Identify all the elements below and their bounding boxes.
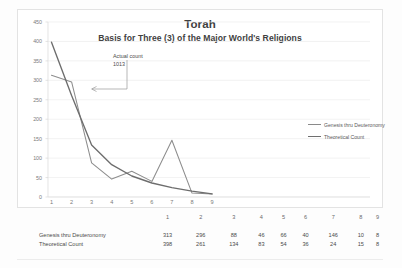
table-header-row: 1 2 3 4 5 6 7 8 9 <box>17 212 383 221</box>
table-cell: 40 <box>295 227 317 239</box>
table-cell: 134 <box>217 239 250 248</box>
table-cell: 8 <box>372 227 383 239</box>
annotation-line-1: Actual count <box>113 52 143 60</box>
column-header: 4 <box>250 212 272 221</box>
column-header: 8 <box>350 212 372 221</box>
table-cell: 313 <box>151 227 184 239</box>
x-tick-label: 9 <box>202 199 222 205</box>
plot-area: 450 400 350 300 250 200 150 100 50 0 1 2… <box>18 10 384 207</box>
annotation-line-2: 1013 <box>113 60 143 68</box>
table-cell: 15 <box>350 239 372 248</box>
row-label: Theoretical Count <box>17 239 151 248</box>
y-tick-label: 50 <box>20 175 42 181</box>
chart-legend[interactable]: Genesis thru Deuteronomy Theoretical Cou… <box>308 120 385 144</box>
legend-line-icon <box>308 124 321 125</box>
x-tick-label: 5 <box>122 199 142 205</box>
x-tick-label: 1 <box>42 199 62 205</box>
column-header: 2 <box>184 212 217 221</box>
y-axis-ticks <box>46 22 49 197</box>
column-header: 5 <box>272 212 294 221</box>
table-cell: 296 <box>184 227 217 239</box>
annotation-actual-count: Actual count 1013 <box>113 52 143 69</box>
y-tick-label: 450 <box>20 19 42 25</box>
legend-line-icon <box>308 136 321 137</box>
table-cell: 8 <box>372 239 383 248</box>
column-header: 3 <box>217 212 250 221</box>
data-table-container[interactable]: 1 2 3 4 5 6 7 8 9 Genesis thru Deuterono… <box>17 212 383 260</box>
x-tick-label: 4 <box>102 199 122 205</box>
table-cell: 398 <box>151 239 184 248</box>
x-tick-label: 7 <box>162 199 182 205</box>
row-label: Genesis thru Deuteronomy <box>17 227 151 239</box>
screenshot-root: Torah Basis for Three (3) of the Major W… <box>0 0 402 268</box>
y-tick-label: 250 <box>20 97 42 103</box>
x-tick-label: 2 <box>62 199 82 205</box>
legend-label: Genesis thru Deuteronomy <box>324 122 385 128</box>
y-tick-label: 0 <box>20 194 42 200</box>
table-cell: 146 <box>317 227 350 239</box>
table-body: Genesis thru Deuteronomy 313 296 88 46 6… <box>17 227 383 248</box>
table-cell: 66 <box>272 227 294 239</box>
table-cell: 83 <box>250 239 272 248</box>
column-header: 9 <box>372 212 383 221</box>
table-cell: 10 <box>350 227 372 239</box>
table-cell: 54 <box>272 239 294 248</box>
y-tick-label: 400 <box>20 38 42 44</box>
x-tick-label: 6 <box>142 199 162 205</box>
table-cell: 88 <box>217 227 250 239</box>
table-cell: 261 <box>184 239 217 248</box>
column-header: 1 <box>151 212 184 221</box>
table-corner-cell <box>17 212 151 221</box>
y-tick-label: 150 <box>20 136 42 142</box>
plot-svg <box>18 10 384 207</box>
table-cell: 24 <box>317 239 350 248</box>
x-tick-label: 3 <box>82 199 102 205</box>
table-row[interactable]: Genesis thru Deuteronomy 313 296 88 46 6… <box>17 227 383 239</box>
table-bottom-divider <box>17 259 383 260</box>
y-tick-label: 350 <box>20 58 42 64</box>
legend-item-genesis-thru-deuteronomy[interactable]: Genesis thru Deuteronomy <box>308 120 385 129</box>
table-cell: 36 <box>295 239 317 248</box>
table-head: 1 2 3 4 5 6 7 8 9 <box>17 212 383 227</box>
legend-item-theoretical-count[interactable]: Theoretical Count <box>308 132 385 141</box>
column-header: 6 <box>295 212 317 221</box>
gridlines <box>48 22 370 178</box>
data-table: 1 2 3 4 5 6 7 8 9 Genesis thru Deuterono… <box>17 212 383 248</box>
y-tick-label: 300 <box>20 77 42 83</box>
legend-label: Theoretical Count <box>324 134 364 140</box>
column-header: 7 <box>317 212 350 221</box>
x-tick-label: 8 <box>182 199 202 205</box>
table-row[interactable]: Theoretical Count 398 261 134 83 54 36 2… <box>17 239 383 248</box>
y-tick-label: 100 <box>20 155 42 161</box>
y-tick-label: 200 <box>20 116 42 122</box>
table-cell: 46 <box>250 227 272 239</box>
chart-container[interactable]: Torah Basis for Three (3) of the Major W… <box>17 9 383 208</box>
